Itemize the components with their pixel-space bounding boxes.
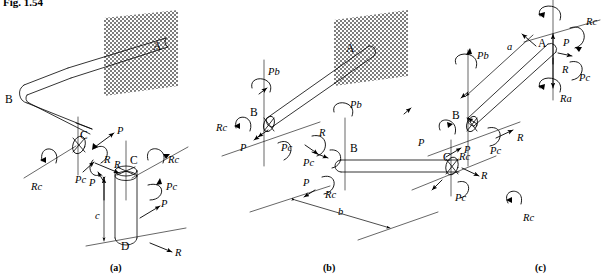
label-point-A-a: A xyxy=(153,41,161,53)
label-force-P-lower-right-a: P xyxy=(161,199,167,210)
label-force-R-mid-a: R xyxy=(114,160,120,171)
label-moment-Rc-top-right-c: Rc xyxy=(586,17,597,28)
label-force-R-right-b: R xyxy=(481,171,487,182)
bar-BC-b xyxy=(335,160,459,172)
label-force-R-top-c: R xyxy=(562,65,568,76)
label-force-R-bottom-a: R xyxy=(175,248,181,259)
ground-axis-b1 xyxy=(250,186,330,212)
label-moment-Pb-c: Pb xyxy=(477,51,489,62)
label-moment-Pc-right-b: Pc xyxy=(455,193,466,204)
label-point-C-b: C xyxy=(443,152,451,164)
axis-Rc-right-a xyxy=(132,147,188,178)
caption-panel-c: (c) xyxy=(535,263,546,273)
label-dimension-c-a: c xyxy=(95,211,100,222)
label-force-P-left-c: P xyxy=(418,138,424,149)
label-moment-Pc-lower-b: Pc xyxy=(303,158,314,169)
torque-loops-a xyxy=(24,143,188,200)
wall-plate-a xyxy=(104,10,178,96)
label-moment-Rc-right-a: Rc xyxy=(168,155,179,166)
label-point-A-c: A xyxy=(538,38,546,50)
label-point-B-lower-b: B xyxy=(350,143,358,155)
label-moment-Pc-right-a: Pc xyxy=(166,182,177,193)
label-dimension-b-b: b xyxy=(338,207,343,218)
label-moment-Rc-right-b: Rc xyxy=(523,213,534,224)
label-force-P-top-c: P xyxy=(563,38,569,49)
dimension-a-c xyxy=(466,35,533,96)
torque-loops-b xyxy=(234,79,522,204)
section-cut-B-upper-b xyxy=(261,115,276,134)
label-point-B-c: B xyxy=(452,110,460,122)
label-force-P-lower-left-a: P xyxy=(89,178,95,189)
label-moment-Rc-upper-left-b: Rc xyxy=(216,123,227,134)
label-moment-R-upper-b: R xyxy=(319,128,325,139)
label-force-R-lower-c: R xyxy=(517,133,523,144)
label-moment-Pc-left-a: Pc xyxy=(75,175,86,186)
bend-B-a xyxy=(20,68,92,134)
label-force-P-mid-b: P xyxy=(303,178,309,189)
label-point-A-b: A xyxy=(346,43,354,55)
label-moment-Pc-top-right-c: Pc xyxy=(579,73,590,84)
label-moment-Pb-upper-b: Pb xyxy=(268,67,280,78)
caption-panel-a: (a) xyxy=(110,263,122,273)
label-moment-Rc-mid-b: Rc xyxy=(325,190,336,201)
axis-Rc-left-a xyxy=(24,146,76,178)
ground-axis-a xyxy=(86,228,186,246)
label-moment-Pb-lower-b: Pb xyxy=(350,100,362,111)
figure-canvas: Fig. 1.54 A B C C D c P R Pc Rc R Rc Pc … xyxy=(0,0,606,276)
caption-panel-b: (b) xyxy=(323,263,335,273)
figure-number: Fig. 1.54 xyxy=(3,0,43,8)
load-arrows-a xyxy=(83,133,172,252)
label-moment-Rc-left-a: Rc xyxy=(31,182,42,193)
label-moment-Ra-c: Ra xyxy=(560,94,572,105)
figure-linework xyxy=(0,0,606,276)
label-moment-R-upper-a: R xyxy=(104,155,110,166)
ground-axis-b2 xyxy=(358,212,438,240)
label-point-B-a: B xyxy=(5,94,13,106)
label-point-B-upper-b: B xyxy=(250,107,258,119)
label-force-P-top-a: P xyxy=(117,126,123,137)
label-moment-Pc-upper-b: Pc xyxy=(281,143,292,154)
label-force-P-upper-left-b: P xyxy=(240,143,246,154)
label-point-D-a: D xyxy=(121,241,129,253)
label-dimension-a-c: a xyxy=(507,42,512,53)
label-point-C-left-a: C xyxy=(80,130,88,142)
label-moment-Pc-lower-c: Pc xyxy=(490,146,501,157)
label-point-C-right-a: C xyxy=(130,155,138,167)
label-moment-Rc-left-c: Rc xyxy=(459,152,470,163)
